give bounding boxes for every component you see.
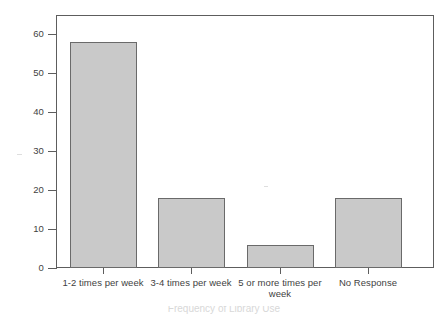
y-axis-tick-label: 0 [16, 263, 44, 273]
y-axis-tick [48, 73, 57, 74]
y-axis-tick-label: 40 [16, 107, 44, 117]
x-axis-tick [280, 268, 281, 274]
y-axis-tick-label: 20 [16, 185, 44, 195]
bar-chart-figure: 0 10 20 30 40 50 60 1-2 times per week 3… [0, 0, 448, 316]
x-axis-label-1-2-times-per-week: 1-2 times per week [55, 277, 151, 288]
x-axis-label-3-4-times-per-week: 3-4 times per week [143, 277, 239, 288]
x-axis-tick [191, 268, 192, 274]
bar-3-4-times-per-week [158, 198, 225, 268]
bar-1-2-times-per-week [70, 42, 137, 268]
y-axis-tick [48, 229, 57, 230]
bar-5-or-more-times-per-week [247, 245, 314, 268]
y-axis-tick-label: 30 [16, 146, 44, 156]
y-axis-tick [48, 112, 57, 113]
y-axis-tick [48, 151, 57, 152]
y-axis-tick [48, 268, 57, 269]
y-axis-tick-label: 10 [16, 224, 44, 234]
y-axis-tick-label: 50 [16, 68, 44, 78]
y-axis-tick-label: 60 [16, 29, 44, 39]
x-axis-label-no-response: No Response [320, 277, 416, 288]
bar-no-response [335, 198, 402, 268]
y-axis-tick [48, 190, 57, 191]
scan-artifact [264, 186, 268, 187]
x-axis-tick [103, 268, 104, 274]
x-axis-label-5-or-more-times-per-week: 5 or more times per week [234, 277, 326, 299]
figure-caption-clipped: Frequency of Library Use [0, 306, 448, 316]
figure-caption-text: Frequency of Library Use [0, 306, 448, 314]
y-axis-tick [48, 34, 57, 35]
x-axis-tick [368, 268, 369, 274]
